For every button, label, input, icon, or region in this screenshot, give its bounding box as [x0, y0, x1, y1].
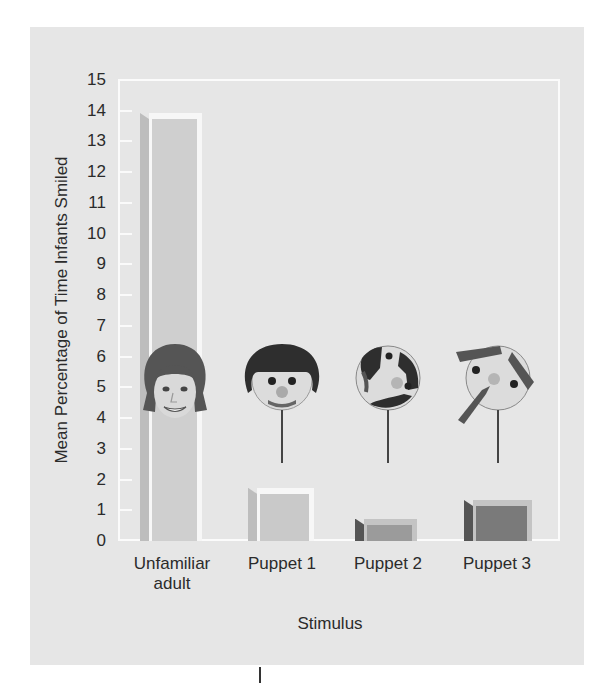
- bar-face: [149, 113, 202, 541]
- x-category-line: Puppet 3: [447, 554, 547, 574]
- bar-face: [473, 500, 532, 541]
- y-tick-label: 7: [76, 317, 106, 335]
- x-axis-label: Stimulus: [255, 614, 405, 634]
- y-tick-label: 1: [76, 501, 106, 519]
- bar-2: [248, 488, 314, 541]
- bar-3: [355, 519, 417, 541]
- y-tick-mark: [120, 325, 132, 327]
- bar-1: [140, 113, 202, 541]
- y-tick-mark: [120, 263, 132, 265]
- x-category-label: Puppet 3: [447, 554, 547, 574]
- bar-side: [248, 488, 257, 541]
- y-tick-label: 5: [76, 378, 106, 396]
- y-tick-mark: [120, 509, 132, 511]
- y-tick-label: 2: [76, 471, 106, 489]
- y-tick-label: 13: [76, 132, 106, 150]
- human-face-icon: [135, 338, 215, 428]
- y-tick-label: 3: [76, 440, 106, 458]
- y-tick-label: 4: [76, 409, 106, 427]
- y-tick-mark: [120, 386, 132, 388]
- page-mark-divider: [259, 667, 261, 683]
- y-tick-mark: [120, 479, 132, 481]
- y-axis-label-text: Mean Percentage of Time Infants Smiled: [52, 156, 72, 463]
- y-tick-label: 12: [76, 163, 106, 181]
- bar-side: [140, 113, 149, 541]
- x-category-line: adult: [122, 574, 222, 594]
- y-tick-label: 10: [76, 225, 106, 243]
- puppet-2-face-icon: [346, 338, 430, 464]
- y-tick-mark: [120, 202, 132, 204]
- bar-face: [364, 519, 417, 541]
- y-tick-mark: [120, 233, 132, 235]
- bar-side: [355, 519, 364, 541]
- y-tick-mark: [120, 417, 132, 419]
- bar-4: [464, 500, 532, 541]
- x-category-line: Unfamiliar: [122, 554, 222, 574]
- x-category-label: Puppet 1: [232, 554, 332, 574]
- y-tick-label: 15: [76, 71, 106, 89]
- y-tick-label: 14: [76, 102, 106, 120]
- y-tick-mark: [120, 110, 132, 112]
- x-category-line: Puppet 2: [338, 554, 438, 574]
- y-tick-mark: [120, 171, 132, 173]
- y-tick-label: 9: [76, 255, 106, 273]
- y-tick-label: 11: [76, 194, 106, 212]
- x-category-label: Unfamiliaradult: [122, 554, 222, 594]
- puppet-1-face-icon: [232, 338, 332, 464]
- x-category-label: Puppet 2: [338, 554, 438, 574]
- puppet-3-face-icon: [452, 338, 544, 464]
- y-tick-label: 0: [76, 532, 106, 550]
- y-tick-mark: [120, 294, 132, 296]
- bar-face: [257, 488, 314, 541]
- y-tick-mark: [120, 448, 132, 450]
- y-tick-mark: [120, 140, 132, 142]
- bar-side: [464, 500, 473, 541]
- y-tick-mark: [120, 356, 132, 358]
- x-category-line: Puppet 1: [232, 554, 332, 574]
- y-tick-label: 6: [76, 348, 106, 366]
- y-tick-label: 8: [76, 286, 106, 304]
